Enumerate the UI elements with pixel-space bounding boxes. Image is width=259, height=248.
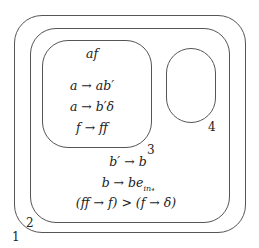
- membrane-2-rule-1: b′ → b: [109, 156, 146, 169]
- membrane-3-rule-2: a → b′δ: [70, 101, 114, 114]
- membrane-4-label: 4: [208, 121, 216, 133]
- membrane-2-label: 2: [26, 217, 34, 229]
- membrane-4: [166, 48, 216, 123]
- membrane-3-rule-3: f → ff: [76, 122, 108, 135]
- membrane-3-label: 3: [147, 144, 155, 156]
- membrane-3-rule-1: a → ab′: [70, 80, 114, 93]
- membrane-2-rule-2: b → bein₄: [102, 177, 155, 193]
- membrane-3-object: af: [86, 48, 98, 61]
- membrane-1-label: 1: [12, 231, 20, 243]
- membrane-2-priority: (ff → f) > (f → δ): [76, 197, 176, 210]
